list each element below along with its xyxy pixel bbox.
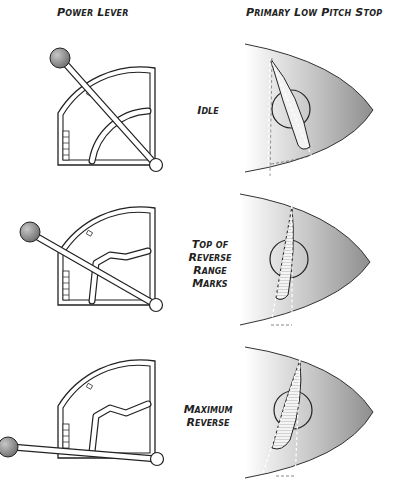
label-line: Marks (178, 277, 242, 290)
label-maximum-reverse: Maximum Reverse (172, 403, 244, 429)
label-top-of-reverse: Top of Reverse Range Marks (178, 238, 242, 290)
label-line: Reverse (172, 416, 244, 429)
spinner-maximum-reverse (245, 347, 373, 482)
label-idle: Idle (183, 104, 233, 117)
label-line: Reverse (178, 251, 242, 264)
label-line: Range (178, 264, 242, 277)
spinner-top-of-reverse (240, 194, 370, 330)
label-line: Top of (178, 238, 242, 251)
power-lever-maximum-reverse (58, 360, 155, 458)
spinner-idle (245, 44, 373, 176)
label-idle-line: Idle (183, 104, 233, 117)
label-line: Maximum (172, 403, 244, 416)
